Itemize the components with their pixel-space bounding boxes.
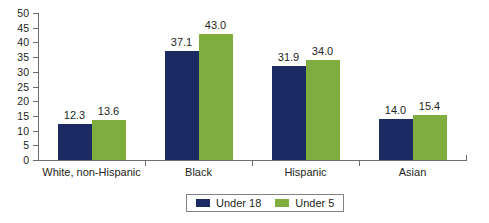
bar-value-label: 15.4 bbox=[409, 101, 451, 112]
x-axis-category-label: White, non-Hispanic bbox=[38, 166, 145, 178]
bar-chart: 50454035302520151050 12.313.637.143.031.… bbox=[0, 0, 489, 223]
bar bbox=[58, 124, 92, 160]
legend-entry: Under 18 bbox=[196, 198, 261, 209]
bar bbox=[165, 51, 199, 160]
y-axis-tick-label: 45 bbox=[0, 23, 29, 33]
x-axis-category-label: Hispanic bbox=[252, 166, 359, 178]
plot-area bbox=[39, 13, 467, 160]
chart-legend: Under 18Under 5 bbox=[186, 194, 344, 212]
bar-value-label: 43.0 bbox=[195, 20, 237, 31]
x-axis-category-label: Black bbox=[145, 166, 252, 178]
bar-value-label: 37.1 bbox=[161, 37, 203, 48]
bar bbox=[199, 34, 233, 160]
y-axis-tick-label: 0 bbox=[0, 155, 29, 165]
legend-entry: Under 5 bbox=[275, 198, 334, 209]
bar bbox=[92, 120, 126, 160]
legend-label: Under 5 bbox=[295, 198, 334, 209]
y-axis-tick-label: 25 bbox=[0, 82, 29, 92]
bar bbox=[379, 119, 413, 160]
legend-swatch-under18 bbox=[196, 199, 210, 207]
y-axis-tick-label: 50 bbox=[0, 8, 29, 18]
bar-value-label: 13.6 bbox=[88, 106, 130, 117]
x-axis-category-label: Asian bbox=[359, 166, 466, 178]
y-axis-tick-label: 35 bbox=[0, 52, 29, 62]
y-axis-tick-label: 40 bbox=[0, 37, 29, 47]
y-axis-tick-label: 30 bbox=[0, 67, 29, 77]
y-axis-tick-label: 15 bbox=[0, 111, 29, 121]
y-axis-tick-label: 10 bbox=[0, 126, 29, 136]
bar-value-label: 34.0 bbox=[302, 46, 344, 57]
bar bbox=[306, 60, 340, 160]
bar bbox=[413, 115, 447, 160]
y-axis-tick-label: 20 bbox=[0, 96, 29, 106]
y-axis-tick-labels: 50454035302520151050 bbox=[0, 0, 30, 223]
legend-swatch-under5 bbox=[275, 199, 289, 207]
bar bbox=[272, 66, 306, 160]
y-axis-tick-label: 5 bbox=[0, 140, 29, 150]
legend-label: Under 18 bbox=[216, 198, 261, 209]
